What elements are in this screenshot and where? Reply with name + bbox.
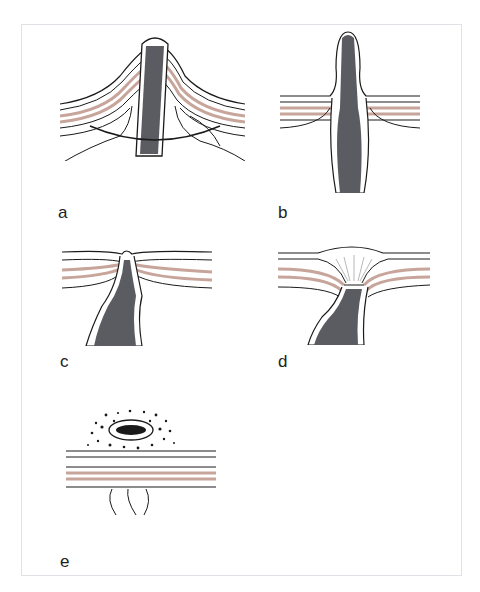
panel-a-illustration [60, 36, 245, 161]
panel-d-illustration [278, 245, 430, 345]
panel-b-illustration [280, 28, 420, 193]
panel-a-label: a [58, 203, 67, 223]
panel-c-illustration [62, 246, 212, 346]
panel-c-label: c [60, 352, 69, 372]
panel-e-label: e [60, 552, 69, 572]
panel-d-label: d [278, 352, 287, 372]
panel-b-label: b [278, 203, 287, 223]
panel-e-illustration [66, 405, 218, 515]
